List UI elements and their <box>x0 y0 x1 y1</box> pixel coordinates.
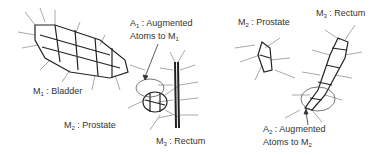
label-m2-prostate-right: M2 : Prostate <box>238 17 290 30</box>
label-m2-prostate-left: M2 : Prostate <box>64 120 116 133</box>
label-m3-rectum-left: M3 : Rectum <box>156 136 205 149</box>
label-m1-bladder: M1 : Bladder <box>33 86 82 99</box>
label-m3-rectum-right: M3 : Rectum <box>316 8 365 21</box>
label-a2: A2 : Augmented Atoms to M2 <box>263 124 325 150</box>
label-a1: A1 : Augmented Atoms to M1 <box>130 18 192 44</box>
mesh-diagram <box>0 0 387 156</box>
